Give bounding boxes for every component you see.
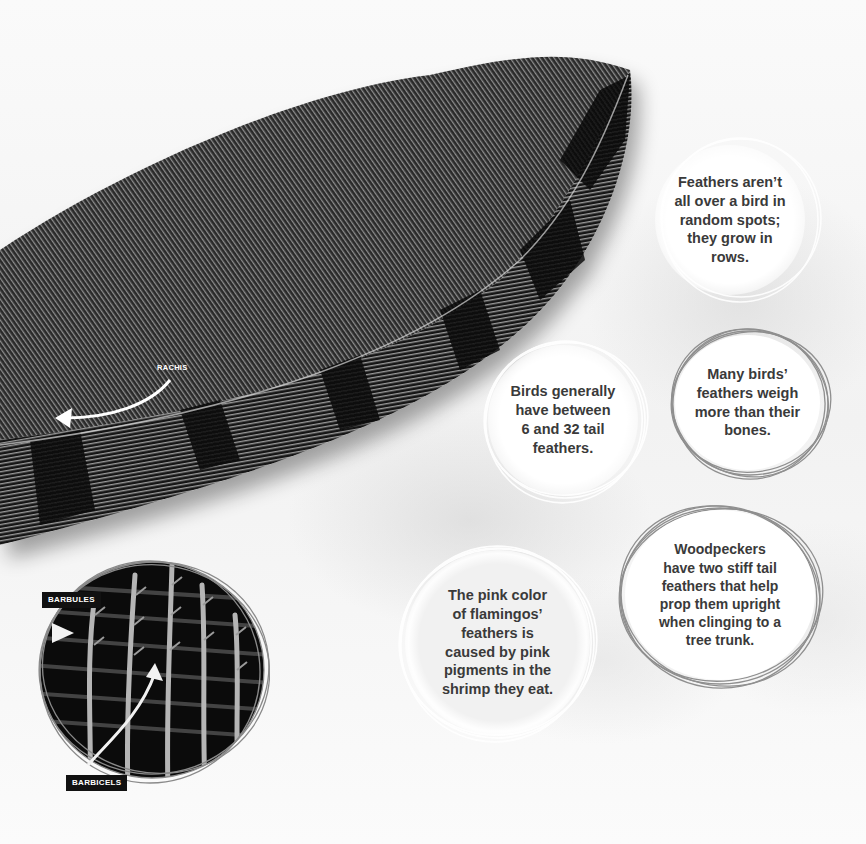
fact-rows: Feathers aren’t all over a bird in rando… [655,145,805,295]
fact-feather-weight: Many birds’ feathers weigh more than the… [675,335,820,470]
rachis-label: RACHIS [157,363,188,372]
fact-text: Birds generally have between 6 and 32 ta… [511,382,616,457]
barbule-microscope-image [30,555,270,790]
fact-text: Many birds’ feathers weigh more than the… [695,365,801,440]
fact-woodpeckers: Woodpeckers have two stiff tail feathers… [625,510,815,680]
fact-text: Feathers aren’t all over a bird in rando… [674,173,785,267]
fact-flamingos: The pink color of flamingos’ feathers is… [405,550,590,735]
barbicels-label: BARBICELS [66,775,127,791]
fact-text: Woodpeckers have two stiff tail feathers… [659,540,781,649]
fact-tail-feathers: Birds generally have between 6 and 32 ta… [488,345,638,495]
barbules-label: BARBULES [42,592,101,608]
fact-text: The pink color of flamingos’ feathers is… [442,586,553,699]
